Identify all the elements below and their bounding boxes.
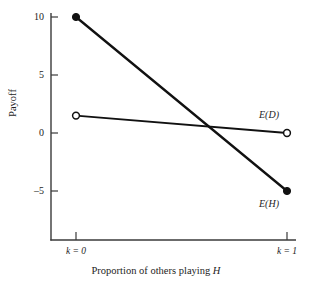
series-ED-marker-left <box>73 112 80 119</box>
y-axis-title: Payoff <box>8 73 19 133</box>
series-line-ED <box>73 112 291 136</box>
series-EH-marker-right <box>283 187 290 194</box>
series-label-EH: E(H) <box>259 199 279 209</box>
series-EH-path <box>76 17 287 191</box>
chart-figure: 10 5 0 –5 k = 0 k = 1 E(D) E(H) Payoff P… <box>0 0 312 292</box>
y-tick-label-10: 10 <box>18 12 44 22</box>
series-ED-marker-right <box>284 130 291 137</box>
x-axis-title-symbol: H <box>213 265 221 276</box>
x-axis-ticks <box>76 232 287 240</box>
series-ED-path <box>76 116 287 133</box>
series-line-EH <box>72 13 290 194</box>
y-tick-label-5: 5 <box>18 70 44 80</box>
series-label-ED: E(D) <box>259 110 279 120</box>
y-tick-label-0: 0 <box>18 128 44 138</box>
x-axis-title: Proportion of others playing H <box>0 266 312 277</box>
y-tick-label-neg5: –5 <box>18 186 44 196</box>
x-tick-label-k0: k = 0 <box>53 247 99 257</box>
x-tick-label-k1: k = 1 <box>264 247 310 257</box>
x-axis-title-text: Proportion of others playing <box>92 265 213 276</box>
y-axis-ticks <box>51 17 58 191</box>
series-EH-marker-left <box>72 13 79 20</box>
